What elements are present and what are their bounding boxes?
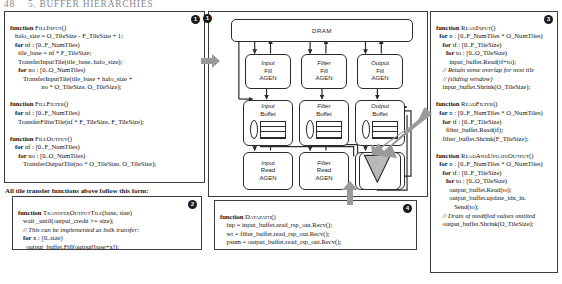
flow-arrows xyxy=(0,0,562,284)
figure-page: 48 5. BUFFER HIERARCHIES 1 function Fill… xyxy=(0,0,562,284)
